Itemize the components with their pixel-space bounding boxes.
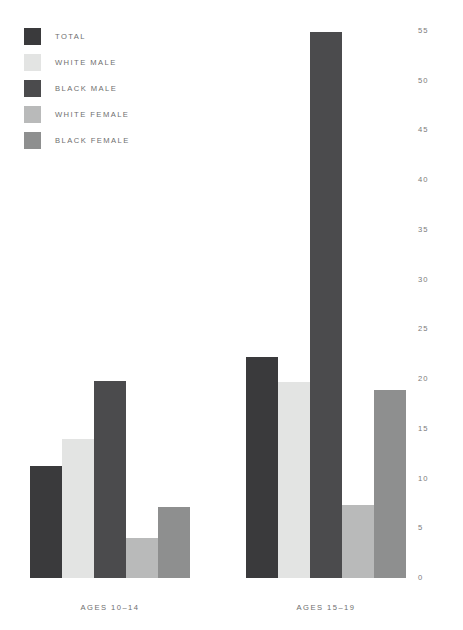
y-axis-tick-15: 15 [418, 425, 429, 433]
y-axis-tick-35: 35 [418, 226, 429, 234]
y-axis-tick-10: 10 [418, 475, 429, 483]
y-axis: 5550454035302520151050 [418, 0, 463, 630]
bar-black-female-group-1 [374, 390, 406, 578]
bar-group-ages-10-14 [30, 31, 190, 578]
bar-white-male-group-1 [278, 382, 310, 578]
y-axis-tick-40: 40 [418, 176, 429, 184]
category-label-ages-15-19: AGES 15–19 [246, 604, 406, 612]
bar-total-group-0 [30, 466, 62, 578]
bar-white-female-group-0 [126, 538, 158, 578]
y-axis-tick-45: 45 [418, 126, 429, 134]
y-axis-tick-25: 25 [418, 325, 429, 333]
y-axis-tick-5: 5 [418, 524, 423, 532]
y-axis-tick-20: 20 [418, 375, 429, 383]
y-axis-tick-30: 30 [418, 276, 429, 284]
bar-chart-plot-area: 5550454035302520151050 AGES 10–14 AGES 1… [0, 0, 463, 630]
bar-group-ages-15-19 [246, 31, 406, 578]
bar-total-group-1 [246, 357, 278, 578]
bar-white-male-group-0 [62, 439, 94, 578]
bar-black-male-group-1 [310, 32, 342, 578]
bar-black-female-group-0 [158, 507, 190, 578]
y-axis-tick-55: 55 [418, 27, 429, 35]
category-label-ages-10-14: AGES 10–14 [30, 604, 190, 612]
y-axis-tick-50: 50 [418, 77, 429, 85]
y-axis-tick-0: 0 [418, 574, 423, 582]
bar-black-male-group-0 [94, 381, 126, 578]
bar-white-female-group-1 [342, 505, 374, 578]
